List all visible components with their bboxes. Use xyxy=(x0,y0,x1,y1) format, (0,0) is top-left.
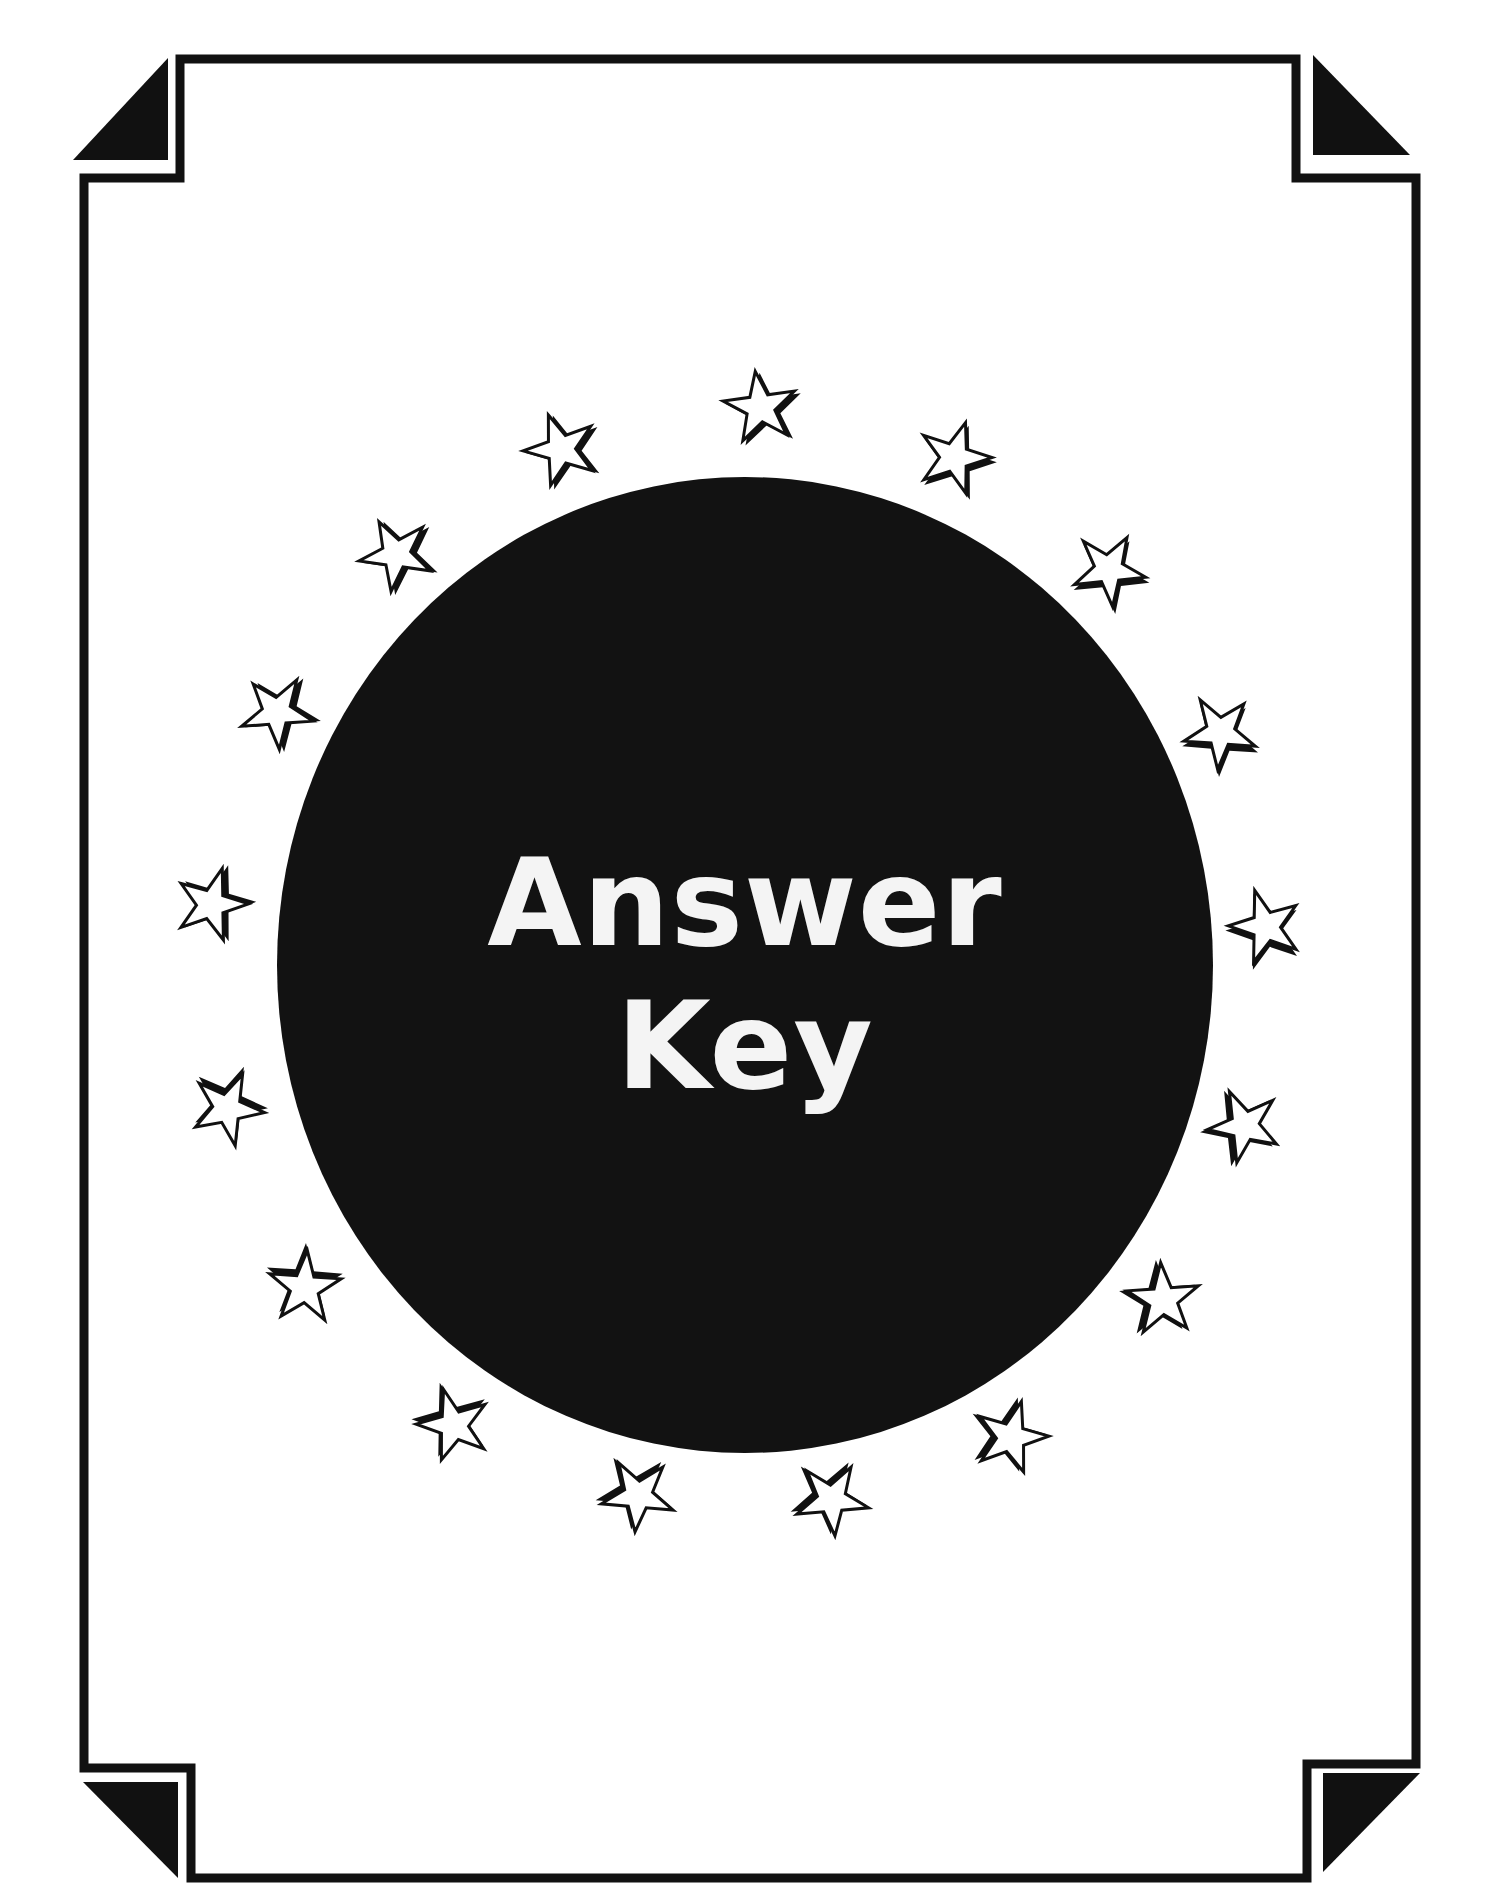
corner-triangle-bottom-left xyxy=(83,1782,178,1878)
star-icon xyxy=(347,502,450,602)
star-icon xyxy=(1108,1250,1214,1355)
star-icon xyxy=(402,1378,500,1472)
star-icon xyxy=(909,412,1005,505)
star-icon xyxy=(960,1392,1058,1486)
answer-key-cover-page: Answer Key xyxy=(0,0,1490,1902)
corner-triangle-bottom-right xyxy=(1323,1773,1420,1872)
corner-triangle-top-left xyxy=(73,58,168,160)
star-icon xyxy=(593,1456,677,1535)
title-line-answer: Answer xyxy=(0,832,1490,974)
star-icon xyxy=(720,365,807,447)
star-icon xyxy=(515,401,613,495)
star-icon xyxy=(787,1461,871,1540)
corner-triangle-top-right xyxy=(1313,55,1410,155)
star-icon xyxy=(1060,520,1164,621)
star-icon xyxy=(1170,681,1276,786)
star-icon xyxy=(249,1234,355,1339)
title-line-key: Key xyxy=(0,975,1490,1117)
star-icon xyxy=(226,657,332,762)
